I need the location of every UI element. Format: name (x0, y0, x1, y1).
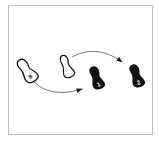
footprint-other (57, 54, 75, 79)
arrow-other-to-step-2 (72, 51, 122, 62)
arrow-start-to-step-1 (34, 82, 82, 92)
footwork-diagram: 8 1 2 (0, 0, 159, 144)
footprint-start: 8 (14, 56, 40, 85)
footprint-step-1: 1 (86, 65, 106, 92)
footprint-step-2: 2 (126, 63, 146, 90)
